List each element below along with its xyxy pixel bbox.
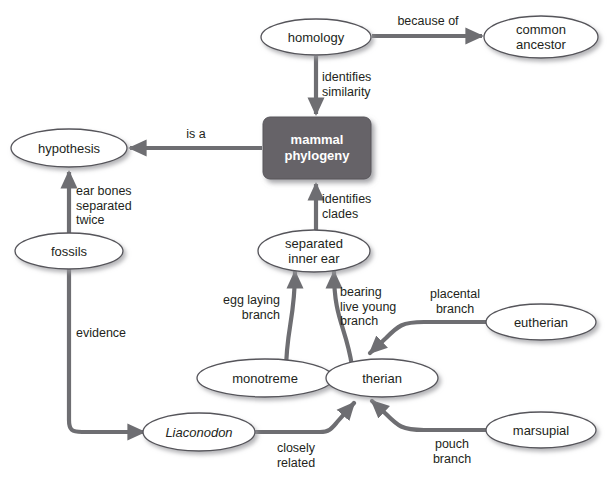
node-liaconodon[interactable]: [143, 413, 255, 451]
node-separated-inner-ear[interactable]: [258, 230, 370, 272]
edge-label-because-of: because of: [373, 14, 483, 29]
node-layer: [11, 16, 598, 451]
node-marsupial[interactable]: [486, 412, 596, 448]
node-fossils[interactable]: [15, 233, 123, 269]
edge-label-pouch-branch: pouch branch: [412, 437, 492, 466]
edge-monotreme-separated-inner-ear: [286, 272, 295, 372]
edge-label-ear-bones-separated-twice: ear bones separated twice: [76, 184, 172, 228]
node-label-mammal-phylogeny: mammal phylogeny: [263, 117, 371, 179]
edge-label-bearing-live-young-branch: bearing live young branch: [340, 285, 424, 329]
edge-label-identifies-similarity: identifies similarity: [322, 70, 418, 99]
edge-fossils-liaconodon: [69, 252, 144, 432]
node-therian[interactable]: [326, 359, 438, 397]
edge-label-is-a: is a: [155, 127, 237, 142]
edge-label-evidence: evidence: [76, 326, 162, 341]
diagram-canvas: [0, 0, 611, 488]
node-monotreme[interactable]: [197, 359, 333, 397]
node-common-ancestor[interactable]: [484, 16, 598, 58]
edge-label-closely-related: closely related: [256, 441, 336, 470]
concept-map-diagram: homology common ancestor mammal phylogen…: [0, 0, 611, 488]
node-eutherian[interactable]: [486, 304, 596, 340]
edge-liaconodon-therian: [253, 403, 354, 432]
edge-marsupial-therian: [372, 401, 486, 430]
node-homology[interactable]: [261, 19, 371, 55]
edge-label-placental-branch: placental branch: [413, 287, 497, 316]
edge-label-egg-laying-branch: egg laying branch: [186, 293, 280, 322]
edge-label-identifies-clades: identifies clades: [322, 192, 412, 221]
node-hypothesis[interactable]: [11, 129, 127, 167]
